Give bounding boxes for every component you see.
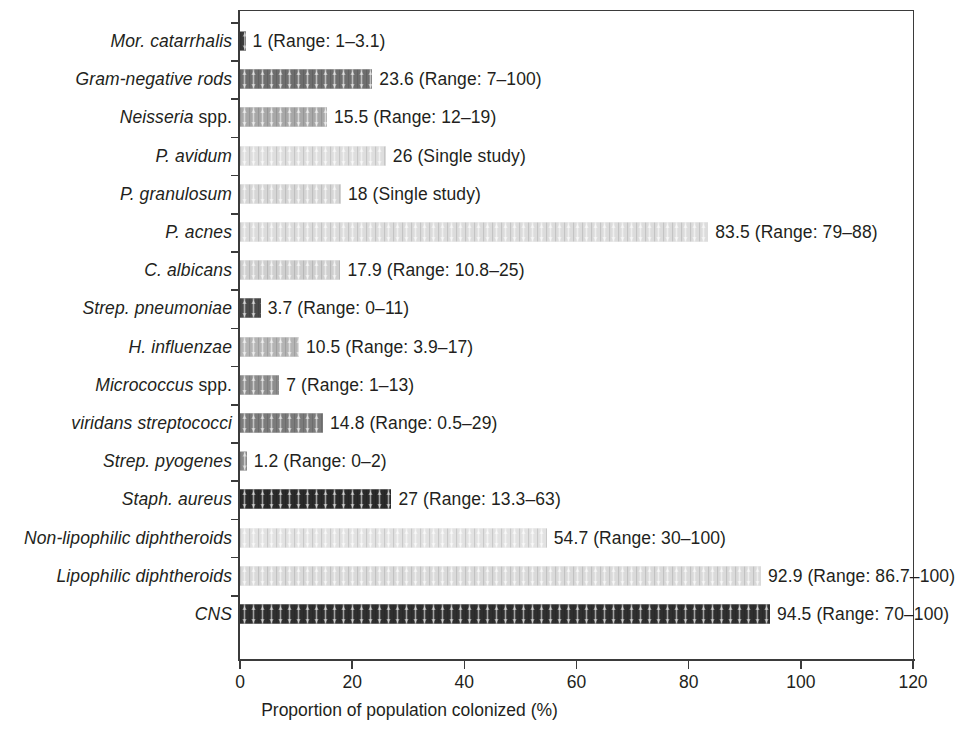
x-axis-tick [351, 660, 353, 669]
bar [240, 452, 247, 471]
category-label: Neisseria spp. [120, 107, 232, 128]
bar [240, 70, 372, 89]
category-label-italic: Neisseria [120, 107, 194, 127]
bar [240, 223, 708, 242]
x-axis-tick-label: 120 [898, 672, 927, 693]
bar-fill [240, 223, 708, 242]
x-axis-title-text: Proportion of population colonized (%) [261, 700, 558, 720]
bar-value-label: 18 (Single study) [348, 183, 481, 204]
bar [240, 32, 246, 51]
bar [240, 146, 386, 165]
category-label-upright: spp. [194, 107, 232, 127]
bar-chart: Mor. catarrhalis1 (Range: 1–3.1)Gram-neg… [0, 0, 975, 738]
category-label: P. acnes [165, 222, 232, 243]
x-axis-tick [576, 660, 578, 669]
bar-value-label: 54.7 (Range: 30–100) [554, 527, 726, 548]
y-axis-tick [231, 519, 239, 521]
x-axis-tick-label: 80 [679, 672, 698, 693]
x-axis-tick [239, 660, 241, 669]
category-label: CNS [195, 604, 232, 625]
bar-value-label: 15.5 (Range: 12–19) [334, 107, 496, 128]
y-axis-tick [231, 328, 239, 330]
bar-fill [240, 414, 323, 433]
bar-row: viridans streptococci14.8 (Range: 0.5–29… [0, 404, 975, 442]
x-axis-tick [688, 660, 690, 669]
category-label: P. avidum [156, 145, 232, 166]
y-axis-tick [231, 366, 239, 368]
category-label: C. albicans [144, 260, 232, 281]
bar-value-label: 27 (Range: 13.3–63) [398, 489, 560, 510]
category-label-italic: Lipophilic diphtheroids [57, 565, 232, 585]
category-label: Lipophilic diphtheroids [57, 565, 232, 586]
y-axis-tick [231, 442, 239, 444]
bar-row: Neisseria spp.15.5 (Range: 12–19) [0, 98, 975, 136]
bar [240, 414, 323, 433]
bar-row: Non-lipophilic diphtheroids54.7 (Range: … [0, 519, 975, 557]
x-axis-tick-label: 40 [455, 672, 474, 693]
category-label-italic: viridans streptococci [71, 413, 232, 433]
bar [240, 605, 770, 624]
category-label-italic: Micrococcus [95, 374, 193, 394]
bar-fill [240, 605, 770, 624]
bar-row: P. avidum26 (Single study) [0, 137, 975, 175]
bar-value-label: 92.9 (Range: 86.7–100) [768, 565, 955, 586]
x-axis-tick-label: 60 [567, 672, 586, 693]
bar-value-label: 10.5 (Range: 3.9–17) [306, 336, 473, 357]
bar-rows: Mor. catarrhalis1 (Range: 1–3.1)Gram-neg… [0, 10, 975, 660]
bar-fill [240, 32, 246, 51]
bar [240, 108, 327, 127]
y-axis-tick [231, 98, 239, 100]
bar [240, 337, 299, 356]
bar [240, 375, 279, 394]
bar-value-label: 23.6 (Range: 7–100) [379, 69, 541, 90]
bar-value-label: 83.5 (Range: 79–88) [715, 222, 877, 243]
bar-row: Strep. pneumoniae3.7 (Range: 0–11) [0, 289, 975, 327]
y-axis-tick [231, 480, 239, 482]
category-label-italic: Staph. aureus [122, 489, 232, 509]
bar-row: P. acnes83.5 (Range: 79–88) [0, 213, 975, 251]
y-axis-tick [231, 404, 239, 406]
bar-row: Micrococcus spp.7 (Range: 1–13) [0, 366, 975, 404]
category-label-upright: spp. [194, 374, 232, 394]
bar-row: Strep. pyogenes1.2 (Range: 0–2) [0, 442, 975, 480]
bar-fill [240, 528, 547, 547]
bar-row: Staph. aureus27 (Range: 13.3–63) [0, 480, 975, 518]
bar-fill [240, 108, 327, 127]
category-label-italic: P. avidum [156, 145, 232, 165]
bar-value-label: 7 (Range: 1–13) [286, 374, 414, 395]
x-axis-tick [800, 660, 802, 669]
category-label-italic: H. influenzae [129, 336, 232, 356]
bar-fill [240, 566, 761, 585]
bar [240, 490, 391, 509]
category-label-italic: CNS [195, 604, 232, 624]
category-label-italic: Strep. pneumoniae [82, 298, 232, 318]
bar-value-label: 94.5 (Range: 70–100) [777, 604, 949, 625]
bar-fill [240, 375, 279, 394]
bar-row: C. albicans17.9 (Range: 10.8–25) [0, 251, 975, 289]
y-axis-tick [231, 251, 239, 253]
bar [240, 528, 547, 547]
bar-fill [240, 146, 386, 165]
x-axis-tick-label: 20 [342, 672, 361, 693]
bar-fill [240, 184, 341, 203]
bar-value-label: 14.8 (Range: 0.5–29) [330, 413, 497, 434]
bar-row: CNS94.5 (Range: 70–100) [0, 595, 975, 633]
bar [240, 261, 340, 280]
category-label: Non-lipophilic diphtheroids [24, 527, 232, 548]
category-label: Gram-negative rods [76, 69, 232, 90]
bar-fill [240, 70, 372, 89]
bar-row: Mor. catarrhalis1 (Range: 1–3.1) [0, 22, 975, 60]
bar [240, 566, 761, 585]
y-axis-tick [231, 175, 239, 177]
y-axis-tick [231, 137, 239, 139]
category-label-italic: Non-lipophilic diphtheroids [24, 527, 232, 547]
category-label: Micrococcus spp. [95, 374, 232, 395]
bar-fill [240, 452, 247, 471]
y-axis-tick [231, 22, 239, 24]
category-label: Staph. aureus [122, 489, 232, 510]
y-axis-tick [231, 60, 239, 62]
x-axis-tick-label: 0 [235, 672, 245, 693]
bar-value-label: 17.9 (Range: 10.8–25) [347, 260, 524, 281]
category-label: Mor. catarrhalis [110, 31, 232, 52]
bar-value-label: 1 (Range: 1–3.1) [253, 31, 386, 52]
